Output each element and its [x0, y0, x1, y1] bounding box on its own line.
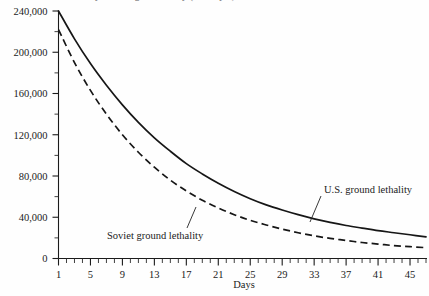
y-tick-label-240000: 240,000 [13, 6, 47, 17]
soviet-series-label: Soviet ground lethality [107, 230, 204, 241]
y-axis-group: 040,00080,000120,000160,000200,000240,00… [13, 6, 58, 265]
x-tick-label-33: 33 [309, 269, 320, 280]
x-tick-label-41: 41 [373, 269, 384, 280]
chart-canvas: 040,00080,000120,000160,000200,000240,00… [0, 0, 429, 296]
x-tick-label-29: 29 [277, 269, 288, 280]
chart-figure: Ground lethality for a single battle day… [0, 0, 429, 296]
y-tick-label-160000: 160,000 [13, 88, 47, 99]
annotation-soviet: Soviet ground lethality [107, 207, 204, 241]
x-tick-label-37: 37 [341, 269, 352, 280]
y-tick-label-120000: 120,000 [13, 130, 47, 141]
x-axis-title: Days [233, 279, 255, 290]
y-axis-ticks [53, 11, 59, 259]
x-axis-ticks [59, 259, 427, 266]
x-tick-label-25: 25 [245, 269, 256, 280]
x-tick-label-17: 17 [181, 269, 192, 280]
y-axis-tick-labels: 040,00080,000120,000160,000200,000240,00… [13, 6, 47, 265]
soviet-leader-line [187, 207, 196, 228]
us-series-label: U.S. ground lethality [324, 184, 413, 195]
y-tick-label-80000: 80,000 [19, 171, 48, 182]
x-tick-label-5: 5 [88, 269, 93, 280]
us-leader-line [310, 196, 321, 222]
x-tick-label-13: 13 [149, 269, 160, 280]
x-tick-label-21: 21 [213, 269, 224, 280]
x-axis-group: 159131721252933374145 Days [56, 259, 427, 291]
x-tick-label-9: 9 [120, 269, 125, 280]
series-line-soviet-ground-lethality [59, 30, 427, 248]
y-tick-label-200000: 200,000 [13, 47, 47, 58]
annotation-us: U.S. ground lethality [310, 184, 413, 222]
x-tick-label-1: 1 [56, 269, 61, 280]
x-tick-label-45: 45 [405, 269, 416, 280]
x-axis-tick-labels: 159131721252933374145 [56, 269, 415, 280]
series-line-us-ground-lethality [59, 11, 427, 237]
y-tick-label-40000: 40,000 [19, 212, 48, 223]
y-tick-label-0: 0 [42, 253, 47, 264]
